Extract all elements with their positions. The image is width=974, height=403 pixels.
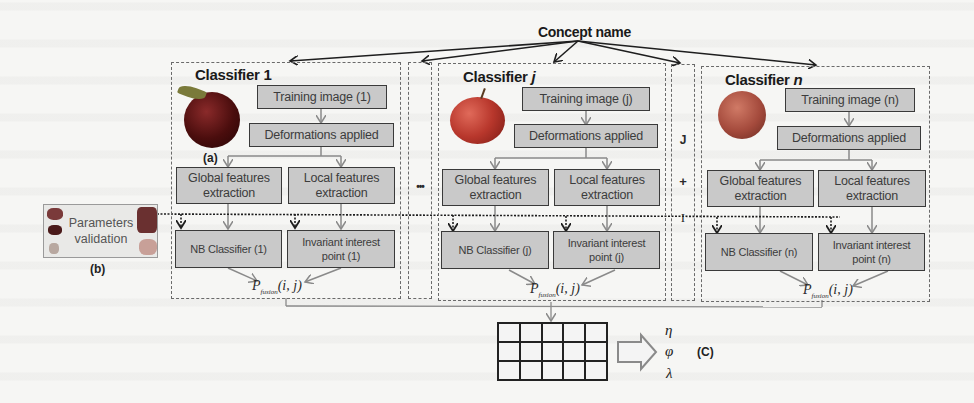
thumb-image [49, 243, 59, 254]
global-features-n-box: Global features extraction [707, 170, 814, 207]
invariant-point-n-box: Invariant interest point (n) [818, 233, 925, 271]
fusion-probability-1: Pfusion(i, j) [252, 278, 302, 296]
invariant-point-j-box: Invariant interest point (j) [553, 231, 660, 269]
nb-classifier-1-box: NB Classifier (1) [175, 230, 282, 268]
training-image-n-box: Training image (n) [785, 88, 915, 112]
fusion-probability-n: Pfusion(i, j) [803, 282, 853, 300]
training-image-j-box: Training image (j) [522, 87, 650, 111]
jplus-plus: + [672, 174, 694, 189]
jplus-i: I [672, 210, 694, 226]
nb-classifier-n-box: NB Classifier (n) [705, 233, 813, 271]
invariant-point-1-box: Invariant interest point (1) [287, 230, 395, 268]
image-label-a: (a) [203, 151, 218, 165]
training-image-1-box: Training image (1) [257, 85, 387, 109]
deformations-1-box: Deformations applied [249, 123, 394, 147]
apple-image-n [718, 91, 766, 139]
param-lambda: λ [666, 365, 673, 382]
thumb-image [48, 225, 62, 235]
parameters-validation-text: Parameters validation [66, 215, 136, 247]
jplus-j: J [672, 133, 694, 147]
fusion-matrix-grid [497, 322, 608, 381]
classifier-1-title: Classifier 1 [195, 66, 271, 83]
classifier-j-title: Classifier j [463, 68, 535, 85]
thumb-image [47, 208, 63, 220]
param-phi: φ [665, 343, 673, 360]
concept-name-label: Concept name [538, 24, 631, 40]
param-eta: η [665, 322, 672, 339]
deformations-n-box: Deformations applied [777, 126, 921, 150]
fusion-probability-j: Pfusion(i, j) [530, 281, 580, 299]
global-features-j-box: Global features extraction [442, 169, 549, 206]
ellipsis-dots: ••• [409, 181, 431, 192]
global-features-1-box: Global features extraction [176, 167, 282, 204]
thumb-image [137, 207, 157, 233]
local-features-n-box: Local features extraction [818, 170, 926, 207]
parameters-validation-box: Parameters validation [43, 204, 158, 258]
thumb-image [139, 239, 157, 255]
local-features-1-box: Local features extraction [288, 167, 395, 204]
image-label-b: (b) [90, 262, 105, 276]
apple-image-j [450, 97, 505, 144]
deformations-j-box: Deformations applied [514, 124, 658, 148]
local-features-j-box: Local features extraction [554, 169, 660, 206]
apple-image-1 [184, 92, 240, 148]
classifier-n-title: Classifier n [725, 71, 802, 88]
output-label-c: (C) [697, 345, 714, 359]
hollow-arrow-icon [618, 335, 656, 369]
nb-classifier-j-box: NB Classifier (j) [441, 231, 549, 269]
